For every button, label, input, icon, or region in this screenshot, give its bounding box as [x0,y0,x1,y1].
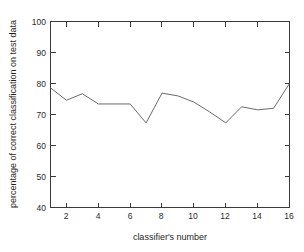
y-tick-label-50: 50 [37,172,47,182]
y-axis-title: percentage of correct classification on … [8,20,18,208]
x-tick-label-4: 4 [96,211,101,221]
y-tick-label-100: 100 [32,17,46,27]
x-tick-label-10: 10 [188,211,198,221]
y-tick-label-90: 90 [37,48,47,58]
chart-figure: 100 90 80 70 60 50 40 2 4 6 8 10 12 14 1… [0,0,304,252]
x-tick-label-2: 2 [64,211,69,221]
x-tick-label-6: 6 [128,211,133,221]
x-tick-label-8: 8 [159,211,164,221]
line-chart: 100 90 80 70 60 50 40 2 4 6 8 10 12 14 1… [0,0,304,252]
x-tick-label-16: 16 [284,211,294,221]
x-axis-title: classifier's number [133,232,207,242]
y-tick-label-70: 70 [37,110,47,120]
x-tick-label-14: 14 [252,211,262,221]
y-tick-label-40: 40 [37,203,47,213]
x-tick-label-12: 12 [220,211,230,221]
y-tick-label-80: 80 [37,79,47,89]
y-tick-label-60: 60 [37,141,47,151]
